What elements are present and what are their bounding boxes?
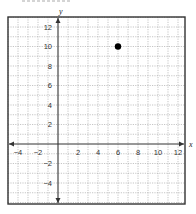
data-points [115, 43, 121, 49]
coordinate-plane: −4−224681012 12108642−2−4 x y [0, 0, 196, 214]
y-tick-label: 4 [48, 101, 52, 110]
y-tick-label: 6 [48, 81, 52, 90]
x-tick-label: 2 [76, 148, 80, 157]
x-axis-label: x [188, 140, 193, 149]
x-axis-left-arrow-icon [9, 142, 14, 147]
x-tick-label: 10 [154, 148, 162, 157]
y-tick-label: 2 [48, 120, 52, 129]
x-tick-label: −4 [14, 148, 23, 157]
plot-frame [8, 17, 185, 204]
x-tick-label: 6 [116, 148, 120, 157]
x-tick-label: −2 [34, 148, 43, 157]
y-tick-label: −4 [43, 179, 52, 188]
y-tick-label: 12 [44, 23, 52, 32]
y-axis-up-arrow-icon [56, 18, 61, 23]
x-axis-right-arrow-icon [179, 142, 184, 147]
y-tick-label: −2 [43, 159, 52, 168]
data-point [115, 43, 121, 49]
grid-lines [8, 17, 185, 204]
x-tick-labels: −4−224681012 [14, 148, 182, 157]
y-tick-label: 10 [44, 42, 52, 51]
y-axis-label: y [58, 7, 63, 16]
axes [9, 18, 184, 203]
x-tick-label: 4 [96, 148, 100, 157]
x-tick-label: 8 [136, 148, 140, 157]
x-tick-label: 12 [174, 148, 182, 157]
y-tick-label: 8 [48, 62, 52, 71]
